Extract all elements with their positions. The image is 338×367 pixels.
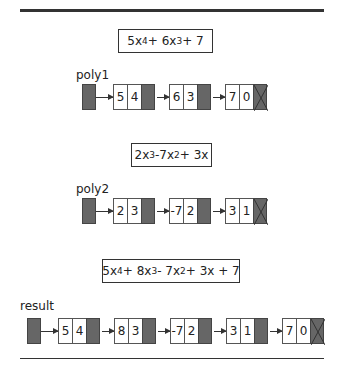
exp-cell: 4: [127, 84, 142, 110]
coef-cell: 5: [113, 84, 128, 110]
coef-cell: 5: [58, 318, 73, 344]
next-pointer: [197, 198, 211, 224]
formula-term: + 6x: [148, 34, 177, 48]
list-label-poly2: poly2: [76, 182, 109, 196]
coef-cell: 7: [225, 84, 240, 110]
node: -7 2: [170, 318, 212, 344]
coef-cell: -7: [170, 318, 185, 344]
list-label-result: result: [20, 299, 54, 313]
exp-cell: 3: [183, 84, 198, 110]
coef-cell: 8: [114, 318, 129, 344]
arrow: [214, 331, 226, 332]
exp-cell: 3: [127, 198, 142, 224]
formula-term: 5x: [127, 34, 142, 48]
formula-term: + 3x: [180, 148, 209, 162]
coef-cell: -7: [169, 198, 184, 224]
formula-term: -7x: [155, 148, 174, 162]
exp-cell: 2: [183, 198, 198, 224]
top-rule: [20, 9, 324, 12]
formula-term: + 7: [182, 34, 204, 48]
null-pointer-icon: [310, 318, 324, 344]
arrow: [102, 331, 114, 332]
list-label-poly1: poly1: [76, 68, 109, 82]
node: 5 4: [113, 84, 155, 110]
exp-cell: 4: [72, 318, 87, 344]
head-pointer-result: [27, 318, 41, 344]
next-pointer: [141, 198, 155, 224]
next-pointer: [197, 84, 211, 110]
node: 6 3: [169, 84, 211, 110]
node: -7 2: [169, 198, 211, 224]
formula-term: - 7x: [157, 264, 180, 278]
coef-cell: 2: [113, 198, 128, 224]
bottom-rule: [20, 358, 324, 359]
formula-term: 2x: [135, 148, 150, 162]
head-pointer-poly2: [82, 198, 96, 224]
formula-poly2: 2x3 -7x2 + 3x: [131, 143, 212, 167]
node: 3 1: [226, 318, 268, 344]
coef-cell: 6: [169, 84, 184, 110]
formula-term: + 8x: [123, 264, 152, 278]
arrow: [157, 211, 169, 212]
head-pointer-poly1: [82, 84, 96, 110]
formula-result: 5x4 + 8x3 - 7x2 + 3x + 7: [102, 259, 240, 283]
formula-poly1: 5x4 + 6x3 + 7: [118, 29, 213, 53]
null-pointer-icon: [253, 84, 267, 110]
node: 7 0: [282, 318, 324, 344]
arrow: [157, 97, 169, 98]
arrow: [41, 331, 58, 332]
arrow: [96, 97, 113, 98]
exp-cell: 0: [296, 318, 311, 344]
next-pointer: [142, 318, 156, 344]
arrow: [96, 211, 113, 212]
coef-cell: 3: [226, 318, 241, 344]
next-pointer: [141, 84, 155, 110]
coef-cell: 7: [282, 318, 297, 344]
node: 3 1: [225, 198, 267, 224]
next-pointer: [254, 318, 268, 344]
node: 2 3: [113, 198, 155, 224]
next-pointer: [198, 318, 212, 344]
formula-term: + 3x + 7: [186, 264, 240, 278]
node: 8 3: [114, 318, 156, 344]
exp-cell: 1: [239, 198, 254, 224]
next-pointer: [86, 318, 100, 344]
null-pointer-icon: [253, 198, 267, 224]
arrow: [213, 211, 225, 212]
exp-cell: 3: [128, 318, 143, 344]
coef-cell: 3: [225, 198, 240, 224]
exp-cell: 2: [184, 318, 199, 344]
exp-cell: 1: [240, 318, 255, 344]
node: 5 4: [58, 318, 100, 344]
exp-cell: 0: [239, 84, 254, 110]
arrow: [158, 331, 170, 332]
arrow: [270, 331, 282, 332]
node: 7 0: [225, 84, 267, 110]
formula-term: 5x: [102, 264, 117, 278]
arrow: [213, 97, 225, 98]
